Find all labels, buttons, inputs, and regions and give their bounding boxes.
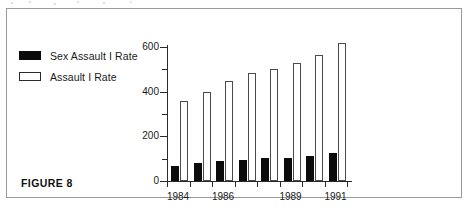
y-axis-tick-minor <box>162 159 167 160</box>
y-axis-tick-label: 0 <box>133 175 159 186</box>
x-axis-tick-label: 1986 <box>212 191 234 202</box>
figure-caption: FIGURE 8 <box>21 177 73 189</box>
legend-item-assault: Assault I Rate <box>19 68 138 85</box>
x-axis-tick <box>302 182 303 187</box>
x-axis-tick <box>190 182 191 187</box>
bar-assault-rate <box>338 43 346 181</box>
bar-assault-rate <box>270 69 278 181</box>
bar-assault-rate <box>315 55 323 181</box>
x-axis-tick-label: 1984 <box>167 191 189 202</box>
bar-sex-assault-rate <box>216 161 224 181</box>
figure-frame: Sex Assault I Rate Assault I Rate FIGURE… <box>6 8 462 198</box>
y-axis-tick-minor <box>162 69 167 70</box>
y-axis-line <box>167 45 168 181</box>
bar-sex-assault-rate <box>329 153 337 181</box>
bar-sex-assault-rate <box>261 158 269 181</box>
x-axis-tick <box>257 182 258 187</box>
bar-assault-rate <box>248 73 256 181</box>
x-axis-tick <box>212 182 213 187</box>
y-axis-tick-major <box>160 92 167 93</box>
x-axis-tick <box>280 182 281 187</box>
bar-assault-rate <box>180 101 188 181</box>
bar-sex-assault-rate <box>284 158 292 181</box>
y-axis-tick-major <box>160 136 167 137</box>
y-axis-tick-minor <box>162 114 167 115</box>
x-axis-tick <box>167 182 168 187</box>
bar-sex-assault-rate <box>239 160 247 181</box>
hollow-white-square-icon <box>19 72 41 81</box>
legend-item-label: Assault I Rate <box>50 71 117 83</box>
x-axis-tick <box>235 182 236 187</box>
filled-black-square-icon <box>19 51 41 60</box>
y-axis-tick-major <box>160 181 167 182</box>
x-axis-tick <box>347 182 348 187</box>
legend-item-label: Sex Assault I Rate <box>50 50 138 62</box>
bar-assault-rate <box>203 92 211 181</box>
chart-legend: Sex Assault I Rate Assault I Rate <box>19 47 138 89</box>
y-axis-tick-label: 600 <box>133 41 159 52</box>
y-axis-tick-label: 400 <box>133 86 159 97</box>
bar-sex-assault-rate <box>306 156 314 181</box>
y-axis-tick-major <box>160 47 167 48</box>
x-axis-tick-label: 1991 <box>324 191 346 202</box>
scanner-noise-band <box>0 0 475 7</box>
bar-assault-rate <box>225 81 233 181</box>
bar-assault-rate <box>293 63 301 181</box>
x-axis-tick <box>325 182 326 187</box>
y-axis-tick-labels: 0200400600 <box>129 31 159 191</box>
y-axis-tick-label: 200 <box>133 130 159 141</box>
legend-item-sex-assault: Sex Assault I Rate <box>19 47 138 64</box>
bar-sex-assault-rate <box>171 166 179 181</box>
x-axis-tick-label: 1989 <box>279 191 301 202</box>
bar-chart-plot-area: 0200400600 1984198619891991 <box>153 31 353 191</box>
bar-sex-assault-rate <box>194 163 202 181</box>
